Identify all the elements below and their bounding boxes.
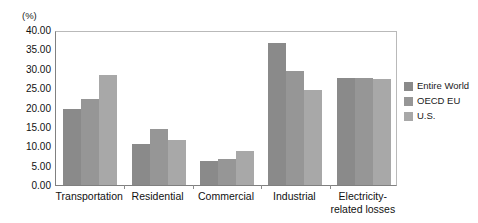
y-axis-tick-label: 35.00 [1, 45, 51, 55]
bar-group-bars [124, 32, 192, 185]
x-axis-category-label-line: Transportation [55, 190, 123, 203]
y-axis-unit-label: (%) [22, 10, 37, 21]
x-axis-tick-mark [193, 185, 194, 189]
bar[interactable] [132, 144, 150, 185]
legend-item[interactable]: Entire World [404, 79, 478, 93]
bar[interactable] [218, 159, 236, 185]
x-axis-tick-mark [330, 185, 331, 189]
legend-item-label: OECD EU [417, 96, 460, 106]
x-axis-tick-mark [124, 185, 125, 189]
x-axis-category-label: Industrial [260, 190, 328, 203]
bar[interactable] [304, 90, 322, 185]
bar[interactable] [200, 161, 218, 185]
y-axis-tick-label: 0.00 [1, 181, 51, 191]
y-axis-tick-label: 20.00 [1, 104, 51, 114]
y-axis-tick-label: 5.00 [1, 162, 51, 172]
legend-item-label: Entire World [417, 81, 469, 91]
x-axis-category-label-line: Commercial [192, 190, 260, 203]
bar-group-bars [193, 32, 261, 185]
x-axis-category-label-line: Industrial [260, 190, 328, 203]
legend-item[interactable]: U.S. [404, 109, 478, 123]
bar[interactable] [355, 78, 373, 185]
legend-color-swatch [404, 97, 413, 106]
legend-item[interactable]: OECD EU [404, 94, 478, 108]
bar[interactable] [337, 78, 355, 185]
y-axis-tick-labels: 40.0035.0030.0025.0020.0015.0010.005.000… [0, 31, 51, 186]
bar[interactable] [268, 43, 286, 185]
bar[interactable] [373, 79, 391, 185]
x-axis-tick-mark [261, 185, 262, 189]
x-axis-category-label-line: related losses [329, 203, 397, 216]
bar-chart: (%) 40.0035.0030.0025.0020.0015.0010.005… [0, 0, 478, 223]
x-axis-category-label-line: Residential [123, 190, 191, 203]
x-axis-category-label-line: Electricity- [329, 190, 397, 203]
y-axis-tick-label: 10.00 [1, 142, 51, 152]
x-axis-category-label: Commercial [192, 190, 260, 203]
bar-group [261, 32, 329, 185]
x-axis-category-label: Residential [123, 190, 191, 203]
bar[interactable] [63, 109, 81, 185]
y-axis-tick-label: 25.00 [1, 84, 51, 94]
bar[interactable] [286, 71, 304, 185]
y-axis-tick-label: 40.00 [1, 26, 51, 36]
legend-item-label: U.S. [417, 111, 435, 121]
chart-legend: Entire WorldOECD EUU.S. [404, 79, 478, 124]
x-axis-category-label: Electricity-related losses [329, 190, 397, 216]
x-axis-category-label: Transportation [55, 190, 123, 203]
y-axis-tick-label: 15.00 [1, 123, 51, 133]
bar-group [330, 32, 398, 185]
bar-group [124, 32, 192, 185]
bar[interactable] [236, 151, 254, 185]
bar[interactable] [81, 99, 99, 185]
legend-color-swatch [404, 82, 413, 91]
bar-group [193, 32, 261, 185]
bar[interactable] [99, 75, 117, 185]
bar-group-bars [261, 32, 329, 185]
bar[interactable] [168, 140, 186, 185]
plot-area [55, 31, 397, 186]
y-axis-tick-label: 30.00 [1, 65, 51, 75]
bar-group-bars [330, 32, 398, 185]
bar[interactable] [150, 129, 168, 185]
bar-group-bars [56, 32, 124, 185]
bar-group [56, 32, 124, 185]
x-axis-category-labels: TransportationResidentialCommercialIndus… [55, 190, 397, 223]
legend-color-swatch [404, 112, 413, 121]
